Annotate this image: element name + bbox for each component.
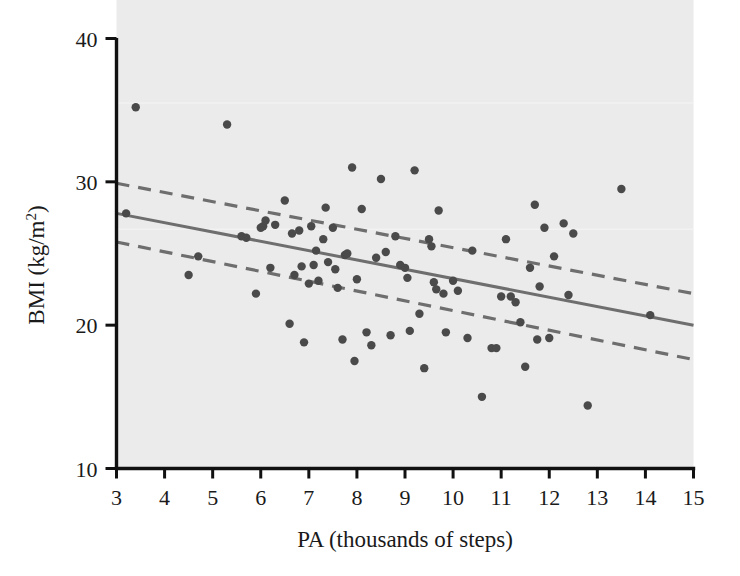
data-point — [319, 235, 327, 243]
data-point — [403, 274, 411, 282]
y-tick-label: 30 — [76, 170, 98, 195]
data-point — [353, 275, 361, 283]
data-point — [358, 205, 366, 213]
x-tick-label: 6 — [255, 485, 266, 510]
plot-area-background — [117, 0, 694, 469]
data-point — [516, 318, 524, 326]
data-point — [252, 289, 260, 297]
x-tick-label: 10 — [442, 485, 464, 510]
data-point — [350, 357, 358, 365]
data-point — [617, 185, 625, 193]
data-point — [377, 175, 385, 183]
scatter-plot-figure: 3456789101112131415 10203040 PA (thousan… — [0, 0, 740, 576]
data-point — [420, 364, 428, 372]
chart-canvas: 3456789101112131415 10203040 PA (thousan… — [0, 0, 740, 576]
data-point — [430, 278, 438, 286]
data-point — [511, 298, 519, 306]
x-tick-label: 13 — [586, 485, 608, 510]
data-point — [261, 216, 269, 224]
data-point — [367, 341, 375, 349]
y-axis-title-close: ) — [24, 205, 49, 213]
data-point — [312, 246, 320, 254]
data-point — [382, 248, 390, 256]
data-point — [559, 219, 567, 227]
data-point — [406, 327, 414, 335]
data-point — [324, 258, 332, 266]
data-point — [266, 264, 274, 272]
data-point — [439, 289, 447, 297]
data-point — [432, 285, 440, 293]
data-point — [449, 277, 457, 285]
data-point — [223, 120, 231, 128]
y-axis-title-base: BMI (kg/ — [24, 238, 49, 325]
data-point — [415, 310, 423, 318]
data-point — [468, 246, 476, 254]
x-tick-label: 15 — [683, 485, 705, 510]
data-point — [569, 229, 577, 237]
data-point — [425, 235, 433, 243]
data-point — [492, 344, 500, 352]
x-tick-label: 14 — [634, 485, 656, 510]
data-point — [434, 206, 442, 214]
data-point — [564, 291, 572, 299]
data-point — [297, 262, 305, 270]
data-point — [321, 203, 329, 211]
data-point — [427, 242, 435, 250]
data-point — [295, 226, 303, 234]
svg-text:BMI (kg/m2): BMI (kg/m2) — [23, 205, 49, 324]
data-point — [314, 277, 322, 285]
y-axis-title: BMI (kg/m2) — [23, 205, 49, 324]
data-point — [333, 284, 341, 292]
x-tick-label: 9 — [400, 485, 411, 510]
data-point — [410, 166, 418, 174]
y-tick-label: 10 — [76, 457, 98, 482]
data-point — [271, 221, 279, 229]
y-axis-title-exponent: 2 — [23, 213, 39, 221]
y-tick-label: 40 — [76, 27, 98, 52]
x-tick-label: 3 — [111, 485, 122, 510]
data-point — [331, 265, 339, 273]
x-tick-label: 12 — [538, 485, 560, 510]
data-point — [290, 271, 298, 279]
data-point — [242, 234, 250, 242]
data-point — [531, 201, 539, 209]
data-point — [288, 229, 296, 237]
data-point — [348, 163, 356, 171]
data-point — [545, 334, 553, 342]
x-axis-title: PA (thousands of steps) — [297, 527, 513, 552]
data-point — [338, 335, 346, 343]
data-point — [305, 279, 313, 287]
x-tick-label: 4 — [159, 485, 170, 510]
data-point — [533, 335, 541, 343]
data-point — [372, 254, 380, 262]
data-point — [329, 224, 337, 232]
y-tick-label: 20 — [76, 313, 98, 338]
data-point — [584, 401, 592, 409]
data-point — [309, 261, 317, 269]
data-point — [540, 224, 548, 232]
data-point — [497, 292, 505, 300]
data-point — [463, 334, 471, 342]
data-point — [401, 264, 409, 272]
data-point — [526, 264, 534, 272]
data-point — [478, 393, 486, 401]
data-point — [300, 338, 308, 346]
data-point — [307, 222, 315, 230]
data-point — [343, 249, 351, 257]
data-point — [521, 363, 529, 371]
data-point — [132, 103, 140, 111]
x-tick-label: 11 — [491, 485, 512, 510]
data-point — [122, 209, 130, 217]
data-point — [454, 287, 462, 295]
data-point — [502, 235, 510, 243]
data-point — [535, 282, 543, 290]
data-point — [184, 271, 192, 279]
data-point — [550, 252, 558, 260]
data-point — [391, 232, 399, 240]
y-axis-title-unit: m — [24, 220, 49, 238]
data-point — [442, 328, 450, 336]
data-point — [285, 320, 293, 328]
data-point — [386, 331, 394, 339]
x-tick-label: 8 — [351, 485, 362, 510]
x-tick-label: 5 — [207, 485, 218, 510]
